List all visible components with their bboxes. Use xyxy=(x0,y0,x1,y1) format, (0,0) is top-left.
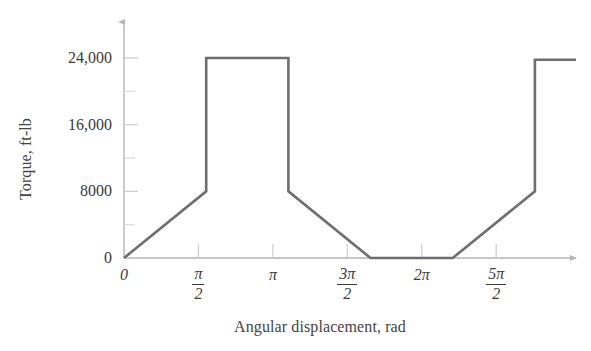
x-tick-5-wrap: 5π 2 xyxy=(466,266,526,303)
fraction-numerator: 5π xyxy=(486,266,506,285)
y-axis-minor-ticks xyxy=(124,91,135,224)
x-tick-label-pi-over-2: π 2 xyxy=(192,266,204,303)
y-axis-title: Torque, ft-lb xyxy=(17,89,35,229)
x-tick-1-wrap: π 2 xyxy=(168,266,228,303)
x-tick-0-wrap: 0 xyxy=(94,266,154,284)
x-tick-label-3pi-over-2: 3π 2 xyxy=(337,266,357,303)
x-tick-0-text: 0 xyxy=(120,267,128,284)
y-tick-label-0: 0 xyxy=(12,249,112,267)
fraction-numerator: 3π xyxy=(337,266,357,285)
x-tick-label-0: 0 xyxy=(120,266,128,284)
x-tick-4-wrap: 2π xyxy=(392,266,452,284)
x-tick-label-2pi: 2π xyxy=(414,266,430,284)
y-tick-label-24000: 24,000 xyxy=(12,49,112,67)
x-tick-2-text: π xyxy=(269,267,277,284)
fraction-denominator: 2 xyxy=(192,285,204,303)
x-tick-label-pi: π xyxy=(269,266,277,284)
x-tick-4-text: 2π xyxy=(414,267,430,284)
fraction-3pi-2: 3π 2 xyxy=(337,266,357,303)
fraction-5pi-2: 5π 2 xyxy=(486,266,506,303)
fraction-numerator: π xyxy=(192,266,204,285)
x-tick-3-wrap: 3π 2 xyxy=(317,266,377,303)
torque-vs-angular-displacement-figure: 0 8000 16,000 24,000 0 π 2 π 3π 2 2π xyxy=(0,0,591,351)
fraction-pi-2: π 2 xyxy=(192,266,204,303)
fraction-denominator: 2 xyxy=(337,285,357,303)
x-axis-ticks xyxy=(198,244,496,258)
x-tick-label-5pi-over-2: 5π 2 xyxy=(486,266,506,303)
torque-curve xyxy=(124,58,576,258)
fraction-denominator: 2 xyxy=(486,285,506,303)
x-axis-title: Angular displacement, rad xyxy=(120,318,520,336)
x-tick-2-wrap: π xyxy=(243,266,303,284)
